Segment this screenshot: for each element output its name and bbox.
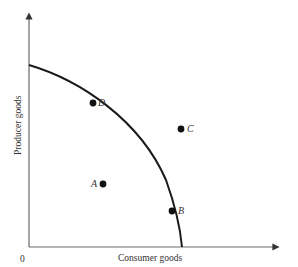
svg-text:A: A <box>90 178 98 189</box>
y-axis-label: Producer goods <box>13 95 23 155</box>
svg-text:C: C <box>187 123 194 134</box>
point-c: C <box>178 123 194 134</box>
x-axis-label: Consumer goods <box>118 253 182 263</box>
ppf-diagram: D C A B 0 Consumer goods Producer goods <box>0 0 298 267</box>
origin-label: 0 <box>20 254 25 264</box>
point-d: D <box>90 97 106 108</box>
svg-text:D: D <box>97 97 106 108</box>
point-a: A <box>90 178 106 189</box>
ppf-curve <box>29 65 182 247</box>
svg-text:B: B <box>178 205 184 216</box>
